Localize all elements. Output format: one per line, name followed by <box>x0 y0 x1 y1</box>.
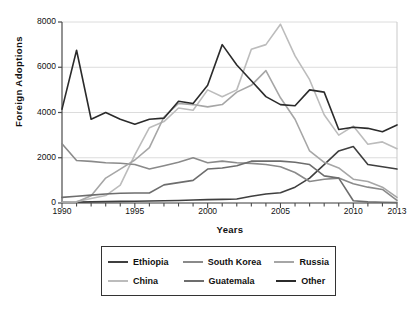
x-tick-label: 2005 <box>260 206 300 216</box>
legend-swatch-china <box>108 280 128 282</box>
legend-label-russia: Russia <box>299 257 329 267</box>
legend-label-china: China <box>133 276 158 286</box>
y-tick-label: 8000 <box>18 16 56 26</box>
legend-label-south-korea: South Korea <box>208 257 262 267</box>
legend-label-guatemala: Guatemala <box>209 276 255 286</box>
x-axis-title: Years <box>62 224 398 235</box>
series-line-other <box>62 45 397 132</box>
y-tick-label: 4000 <box>18 107 56 117</box>
y-tick-label: 2000 <box>18 152 56 162</box>
x-tick-label: 2013 <box>377 206 417 216</box>
series-line-russia <box>62 71 397 203</box>
legend-label-other: Other <box>301 276 325 286</box>
legend-item-south-korea[interactable]: South Korea <box>183 257 275 267</box>
y-tick-label: 6000 <box>18 61 56 71</box>
legend-swatch-other <box>276 280 296 282</box>
legend-item-china[interactable]: China <box>108 276 184 286</box>
foreign-adoptions-line-chart: Foreign Adoptions Years 0200040006000800… <box>0 0 419 314</box>
x-tick-label: 1995 <box>115 206 155 216</box>
x-tick-label: 2000 <box>188 206 228 216</box>
series-line-china <box>62 24 397 202</box>
legend-row: China Guatemala Other <box>108 271 329 290</box>
legend-swatch-russia <box>274 261 294 263</box>
legend-item-ethiopia[interactable]: Ethiopia <box>108 257 183 267</box>
legend-row: Ethiopia South Korea Russia <box>108 252 329 271</box>
legend-label-ethiopia: Ethiopia <box>133 257 169 267</box>
x-tick-label: 1990 <box>42 206 82 216</box>
legend-item-other[interactable]: Other <box>276 276 329 286</box>
legend-item-russia[interactable]: Russia <box>274 257 329 267</box>
x-tick-label: 2010 <box>333 206 373 216</box>
chart-legend: Ethiopia South Korea Russia China Guatem… <box>101 246 336 296</box>
legend-swatch-guatemala <box>184 280 204 282</box>
legend-swatch-south-korea <box>183 261 203 263</box>
legend-item-guatemala[interactable]: Guatemala <box>184 276 277 286</box>
legend-swatch-ethiopia <box>108 261 128 263</box>
